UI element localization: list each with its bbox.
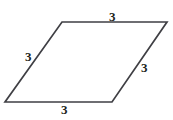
side-label-right: 3 [141, 61, 148, 74]
side-label-bottom: 3 [61, 103, 68, 116]
side-label-top: 3 [109, 10, 116, 23]
side-label-left: 3 [25, 50, 32, 63]
